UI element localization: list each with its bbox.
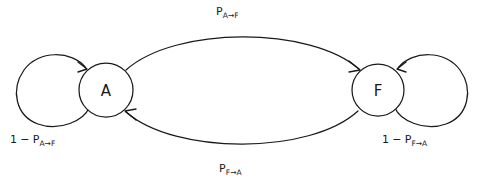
state-transition-diagram: A F PA→F PF→A 1−PA→F 1−PF→A (0, 0, 477, 187)
self-loop-a-path (16, 55, 89, 127)
node-a[interactable]: A (79, 63, 133, 117)
self-loop-f (395, 55, 468, 127)
edge-label-self-loop-a-minus: − (17, 133, 32, 146)
edge-label-self-loop-a: 1−PA→F (10, 134, 55, 145)
edge-label-a-to-f-prefix: P (216, 5, 223, 18)
edge-label-self-loop-a-subscript: A→F (39, 139, 55, 148)
edge-label-f-to-a: PF→A (219, 163, 242, 174)
edge-label-f-to-a-prefix: P (219, 162, 226, 175)
diagram-canvas: A F (0, 0, 477, 187)
self-loop-a (16, 55, 89, 127)
edge-f-to-a-arrowhead (125, 109, 136, 120)
edge-f-to-a-path (126, 111, 358, 144)
edge-label-a-to-f-subscript: A→F (223, 11, 239, 20)
node-f-label: F (374, 82, 383, 100)
edge-label-f-to-a-subscript: F→A (226, 168, 242, 177)
edge-label-self-loop-f: 1−PF→A (382, 134, 427, 145)
edge-a-to-f-arrowhead (349, 61, 360, 72)
edge-a-to-f (126, 37, 360, 72)
edge-label-self-loop-f-subscript: F→A (411, 139, 427, 148)
self-loop-f-path (395, 55, 468, 127)
node-a-label: A (101, 82, 112, 100)
edge-a-to-f-path (126, 37, 359, 70)
edge-f-to-a (125, 109, 358, 144)
edge-label-self-loop-f-minus: − (389, 133, 404, 146)
node-f[interactable]: F (352, 64, 404, 116)
edge-label-a-to-f: PA→F (216, 6, 239, 17)
